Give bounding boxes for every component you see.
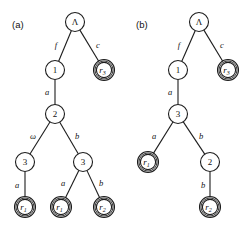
edge-label: b <box>201 180 205 190</box>
tree-node: r1 <box>15 197 36 218</box>
edge-label: b <box>99 178 103 188</box>
edge-label: a <box>61 178 65 188</box>
tree-node: 3 <box>169 105 188 124</box>
edge-label: c <box>220 40 224 50</box>
tree-edge <box>59 31 72 61</box>
edge-label: c <box>96 40 100 50</box>
node-label: 1 <box>53 65 58 75</box>
tree-node: r3 <box>94 60 115 81</box>
edge-label: a <box>152 131 156 141</box>
node-label-subscript: 3 <box>226 70 230 76</box>
tree-node: 2 <box>201 153 220 172</box>
tree-edge <box>182 31 195 62</box>
tree-node: 3 <box>74 153 93 172</box>
edge-label: b <box>199 131 203 141</box>
tree-edge <box>154 122 173 153</box>
tree-node: 2 <box>46 105 65 124</box>
node-label-subscript: 2 <box>209 207 212 213</box>
edge-label: ω <box>30 131 36 141</box>
node-label: 3 <box>23 157 28 167</box>
edge-label: a <box>168 87 172 97</box>
tree-node: 3 <box>16 153 35 172</box>
tree-node: r1 <box>51 197 72 218</box>
tree-edge <box>66 171 79 198</box>
edge-label: b <box>75 131 79 141</box>
tree-node: 1 <box>169 61 188 80</box>
tree-node: Λ <box>190 13 209 32</box>
node-label-subscript: 1 <box>147 162 150 168</box>
node-label: Λ <box>196 17 203 27</box>
derivation-tree-figure: Λ1r3233r1r1r2Λ1r33r12r2 fcaωbaabfcaabb (… <box>0 0 247 230</box>
node-label: Λ <box>72 17 79 27</box>
node-label: 3 <box>176 109 181 119</box>
node-label: 2 <box>208 157 213 167</box>
tree-node: r1 <box>138 152 159 173</box>
tree-node: Λ <box>66 13 85 32</box>
figure-container: Λ1r3233r1r1r2Λ1r33r12r2 fcaωbaabfcaabb (… <box>0 0 247 230</box>
node-label: 2 <box>53 109 58 119</box>
node-label-subscript: 2 <box>103 207 106 213</box>
edge-label: a <box>15 180 19 190</box>
panel-label-panel-b: (b) <box>136 19 148 30</box>
node-label: 1 <box>176 65 181 75</box>
edge-label: f <box>55 40 59 50</box>
tree-node: r2 <box>200 197 221 218</box>
edge-label: a <box>45 87 49 97</box>
tree-node: r2 <box>94 197 115 218</box>
edge-label: f <box>178 40 182 50</box>
node-label-subscript: 1 <box>60 207 63 213</box>
tree-node: r3 <box>218 60 239 81</box>
panel-label-panel-a: (a) <box>12 19 24 30</box>
node-label-subscript: 1 <box>24 207 27 213</box>
node-label-subscript: 3 <box>102 70 106 76</box>
node-label: 3 <box>81 157 86 167</box>
tree-node: 1 <box>46 61 65 80</box>
tree-edge <box>87 171 100 198</box>
